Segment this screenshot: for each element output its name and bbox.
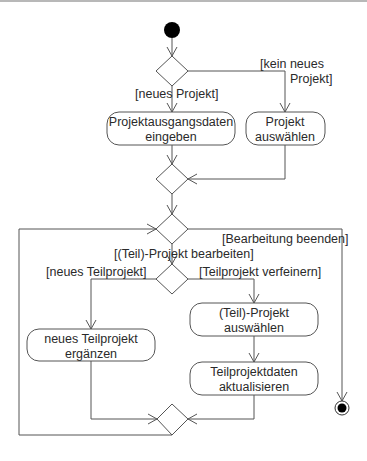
flow-to-merge [188, 145, 285, 179]
flow-new-subproject [91, 279, 156, 329]
action-select-project: Projekt auswählen [246, 112, 325, 145]
decision-node-edit [156, 214, 188, 244]
svg-text:eingeben: eingeben [145, 130, 196, 144]
initial-node [164, 22, 180, 38]
svg-text:Teilprojektdaten: Teilprojektdaten [210, 365, 298, 379]
svg-text:(Teil)-Projekt: (Teil)-Projekt [219, 306, 290, 320]
action-add-subproject: neues Teilprojekt ergänzen [27, 329, 155, 361]
action-enter-project-data: Projektausgangsdaten eingeben [107, 112, 235, 145]
action-select-subproject: (Teil)-Projekt auswählen [190, 303, 318, 336]
guard-no-new-project-line1: [kein neues [260, 57, 324, 71]
guard-new-project: [neues Projekt] [135, 87, 218, 101]
svg-text:Projektausgangsdaten: Projektausgangsdaten [109, 115, 233, 129]
guard-end-editing: [Bearbeitung beenden] [222, 232, 349, 246]
svg-text:ergänzen: ergänzen [65, 347, 117, 361]
action-update-subproject-data: Teilprojektdaten aktualisieren [190, 362, 318, 395]
svg-text:auswählen: auswählen [255, 130, 315, 144]
activity-diagram: [neues Projekt] [kein neues Projekt] Pro… [0, 0, 367, 461]
svg-text:auswählen: auswählen [224, 321, 284, 335]
decision-node-subproject [156, 264, 188, 294]
guard-no-new-project-line2: Projekt] [290, 72, 332, 86]
guard-edit-project: [(Teil)-Projekt bearbeiten] [114, 247, 254, 261]
decision-node-project [156, 56, 188, 86]
final-node [335, 401, 349, 415]
flow-to-merge-subproject [91, 361, 157, 419]
svg-text:aktualisieren: aktualisieren [219, 380, 289, 394]
guard-new-subproject: [neues Teilprojekt] [46, 265, 147, 279]
svg-text:neues Teilprojekt: neues Teilprojekt [44, 332, 138, 346]
svg-text:Projekt: Projekt [266, 115, 305, 129]
merge-node-project [156, 164, 188, 194]
flow-refine-subproject [188, 279, 254, 303]
merge-node-subproject [157, 404, 188, 435]
guard-refine-subproject: [Teilprojekt verfeinern] [199, 265, 321, 279]
flow-to-merge-subproject [188, 395, 254, 419]
